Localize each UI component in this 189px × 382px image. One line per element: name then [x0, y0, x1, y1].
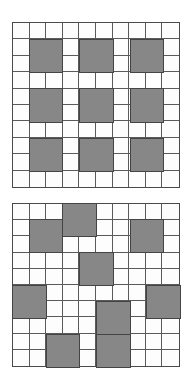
grid-cell — [129, 301, 146, 317]
grid-cell — [46, 204, 63, 220]
grid-cell — [162, 236, 179, 252]
grid-cell — [96, 285, 113, 301]
grid-cell — [96, 171, 113, 187]
grid-cell — [162, 334, 179, 350]
grid-cell — [13, 89, 30, 105]
grid-cell — [46, 171, 63, 187]
grid-cell — [79, 285, 96, 301]
grid-cell — [79, 236, 96, 252]
shaded-block — [29, 88, 64, 122]
grid-cell — [113, 220, 130, 236]
grid-cell — [13, 350, 30, 366]
grid-cell — [13, 154, 30, 170]
grid-cell — [113, 121, 130, 137]
grid-cell — [96, 121, 113, 137]
grid-cell — [79, 171, 96, 187]
grid-cell — [96, 204, 113, 220]
grid-cell — [46, 121, 63, 137]
grid-cell — [13, 23, 30, 39]
grid-cell — [13, 236, 30, 252]
grid-cell — [46, 72, 63, 88]
grid-cell — [113, 72, 130, 88]
grid-cell — [146, 171, 163, 187]
grid-cell — [30, 171, 47, 187]
grid-cell — [13, 105, 30, 121]
grid-cell — [113, 89, 130, 105]
grid-cell — [129, 121, 146, 137]
grid-cell — [63, 56, 80, 72]
grid-cell — [113, 269, 130, 285]
grid-cell — [162, 56, 179, 72]
shaded-block — [130, 219, 165, 253]
grid-cell — [13, 269, 30, 285]
shaded-block — [130, 39, 165, 73]
grid-cell — [129, 253, 146, 269]
shaded-block — [62, 203, 97, 237]
grid-cell — [13, 204, 30, 220]
grid-cell — [79, 334, 96, 350]
grid-cell — [162, 220, 179, 236]
grid-cell — [13, 72, 30, 88]
grid-cell — [30, 317, 47, 333]
grid-cell — [30, 334, 47, 350]
grid-cell — [63, 138, 80, 154]
grid-cell — [129, 171, 146, 187]
grid-cell — [79, 72, 96, 88]
grid-cell — [113, 154, 130, 170]
grid-cell — [13, 334, 30, 350]
grid-cell — [162, 269, 179, 285]
grid-cell — [162, 154, 179, 170]
shaded-block — [96, 334, 131, 368]
grid-cell — [79, 350, 96, 366]
grid-cell — [63, 72, 80, 88]
grid-cell — [96, 72, 113, 88]
grid-cell — [63, 317, 80, 333]
grid-cell — [113, 204, 130, 220]
shaded-block — [79, 39, 114, 73]
grid-cell — [13, 253, 30, 269]
grid-cell — [162, 89, 179, 105]
grid-cell — [63, 23, 80, 39]
grid-cell — [113, 23, 130, 39]
grid-cell — [30, 23, 47, 39]
grid-cell — [63, 236, 80, 252]
grid-cell — [63, 171, 80, 187]
grid-cell — [63, 121, 80, 137]
grid-cell — [46, 301, 63, 317]
grid-cell — [129, 317, 146, 333]
grid-cell — [146, 253, 163, 269]
grid-cell — [63, 269, 80, 285]
grid-cell — [146, 23, 163, 39]
shaded-block — [29, 219, 64, 253]
grid-cell — [146, 350, 163, 366]
grid-cell — [96, 236, 113, 252]
grid-cell — [63, 154, 80, 170]
grid-cell — [162, 72, 179, 88]
grid-cell — [162, 39, 179, 55]
grid-cell — [46, 253, 63, 269]
grid-cell — [96, 23, 113, 39]
grid-cell — [46, 269, 63, 285]
grid-cell — [13, 317, 30, 333]
grid-cell — [30, 204, 47, 220]
shaded-block — [96, 301, 131, 335]
grid-cell — [63, 105, 80, 121]
shaded-block — [146, 285, 181, 319]
grid-cell — [79, 23, 96, 39]
grid-cell — [113, 56, 130, 72]
grid-cell — [63, 301, 80, 317]
grid-cell — [146, 334, 163, 350]
grid-cell — [162, 317, 179, 333]
grid-cell — [30, 253, 47, 269]
grid-cell — [129, 204, 146, 220]
grid-cell — [30, 269, 47, 285]
grid-cell — [46, 317, 63, 333]
grid-cell — [113, 285, 130, 301]
grid-cell — [13, 39, 30, 55]
grid-cell — [129, 23, 146, 39]
grid-cell — [146, 72, 163, 88]
shaded-block — [79, 252, 114, 286]
grid-cell — [30, 121, 47, 137]
grid-cell — [129, 269, 146, 285]
grid-cell — [129, 350, 146, 366]
